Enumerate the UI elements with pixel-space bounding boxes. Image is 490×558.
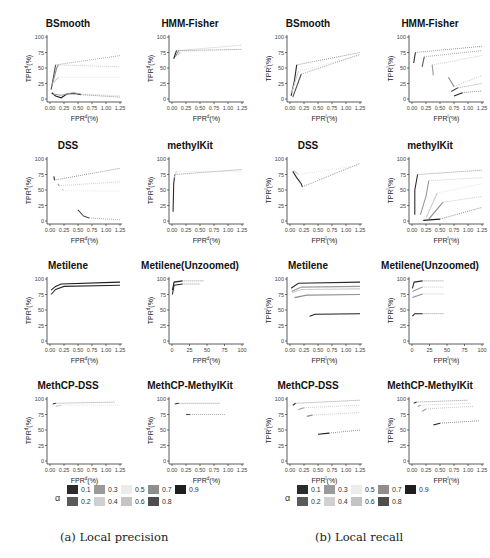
svg-text:75: 75: [160, 292, 166, 298]
svg-text:25: 25: [426, 347, 432, 353]
svg-text:0.25: 0.25: [181, 467, 192, 473]
svg-text:1.25: 1.25: [355, 105, 366, 111]
legend-label: 0.9: [189, 486, 199, 493]
svg-text:0.50: 0.50: [195, 227, 206, 233]
svg-text:25: 25: [400, 323, 406, 329]
caption-left: (a) Local precision: [60, 530, 168, 544]
svg-text:0.25: 0.25: [59, 105, 70, 111]
legend-right: α0.10.20.30.40.50.60.70.80.9: [285, 485, 465, 515]
svg-text:25: 25: [160, 443, 166, 449]
svg-text:100: 100: [157, 34, 166, 40]
svg-text:TPRd(%): TPRd(%): [146, 417, 155, 444]
legend-swatch-0-6: [121, 497, 132, 506]
svg-text:0: 0: [41, 96, 44, 102]
legend-swatch-0-7: [378, 485, 389, 494]
svg-text:TPRl(%): TPRl(%): [386, 178, 395, 204]
svg-text:100: 100: [237, 347, 246, 353]
legend-label: 0.3: [108, 486, 118, 493]
legend-swatch-0-8: [148, 497, 159, 506]
svg-text:75: 75: [461, 347, 467, 353]
chart-plot: 02550751000.000.250.500.751.001.25FPRd(%…: [8, 6, 128, 124]
svg-text:0.25: 0.25: [181, 227, 192, 233]
svg-text:25: 25: [160, 81, 166, 87]
svg-text:1.25: 1.25: [115, 347, 126, 353]
caption-right: (b) Local recall: [315, 530, 403, 544]
chart-panel-methcp-dss-recall: MethCP-DSS02550751000.000.250.500.751.00…: [248, 368, 368, 486]
svg-text:75: 75: [278, 172, 284, 178]
svg-text:25: 25: [278, 443, 284, 449]
svg-text:FPRd(%): FPRd(%): [71, 476, 98, 485]
svg-text:50: 50: [160, 65, 166, 71]
legend-alpha-symbol: α: [285, 493, 290, 503]
svg-text:0.50: 0.50: [73, 105, 84, 111]
svg-text:100: 100: [35, 34, 44, 40]
svg-text:FPRd(%): FPRd(%): [193, 236, 220, 245]
svg-text:0.50: 0.50: [195, 467, 206, 473]
legend-swatch-0-7: [148, 485, 159, 494]
svg-text:50: 50: [204, 347, 210, 353]
legend-swatch-0-9: [175, 485, 186, 494]
chart-plot: 02550751000.000.250.500.751.001.25FPRl(%…: [370, 128, 490, 246]
svg-text:0: 0: [163, 338, 166, 344]
svg-text:0.00: 0.00: [407, 467, 418, 473]
svg-text:TPRl(%): TPRl(%): [386, 56, 395, 82]
svg-text:0.50: 0.50: [435, 227, 446, 233]
svg-text:0.75: 0.75: [87, 467, 98, 473]
chart-plot: 02550751000.000.250.500.751.001.25FPRl(%…: [248, 248, 368, 366]
svg-text:TPRd(%): TPRd(%): [146, 297, 155, 324]
svg-text:0.50: 0.50: [73, 467, 84, 473]
chart-plot: 02550751000.000.250.500.751.001.25FPRl(%…: [248, 6, 368, 124]
svg-text:0: 0: [403, 458, 406, 464]
svg-text:FPRd(%): FPRd(%): [193, 114, 220, 123]
svg-text:25: 25: [400, 81, 406, 87]
svg-text:25: 25: [160, 203, 166, 209]
chart-plot: 02550751000.000.250.500.751.001.25FPRl(%…: [248, 368, 368, 486]
svg-text:TPRl(%): TPRl(%): [264, 178, 273, 204]
svg-text:25: 25: [278, 203, 284, 209]
legend-swatch-0-5: [121, 485, 132, 494]
legend-swatch-0-9: [405, 485, 416, 494]
svg-text:FPRl(%): FPRl(%): [312, 114, 338, 123]
chart-panel-dss-recall: DSS02550751000.000.250.500.751.001.25FPR…: [248, 128, 368, 246]
svg-text:1.00: 1.00: [223, 227, 234, 233]
svg-text:0.75: 0.75: [87, 105, 98, 111]
svg-text:1.00: 1.00: [101, 347, 112, 353]
svg-text:1.00: 1.00: [463, 227, 474, 233]
svg-text:0: 0: [41, 338, 44, 344]
svg-text:FPRl(%): FPRl(%): [434, 114, 460, 123]
svg-text:0.50: 0.50: [435, 467, 446, 473]
svg-text:FPRd(%): FPRd(%): [71, 114, 98, 123]
svg-text:0.50: 0.50: [73, 347, 84, 353]
legend-left: α0.10.20.30.40.50.60.70.80.9: [55, 485, 235, 515]
svg-text:0: 0: [281, 458, 284, 464]
svg-text:75: 75: [38, 172, 44, 178]
svg-text:50: 50: [278, 187, 284, 193]
legend-swatch-0-4: [324, 497, 335, 506]
legend-swatch-0-6: [351, 497, 362, 506]
svg-text:75: 75: [38, 50, 44, 56]
svg-text:50: 50: [400, 187, 406, 193]
svg-text:1.25: 1.25: [115, 105, 126, 111]
chart-panel-methylkit-precision: methylKit02550751000.000.250.500.751.001…: [130, 128, 250, 246]
svg-text:0.75: 0.75: [209, 227, 220, 233]
svg-text:75: 75: [400, 50, 406, 56]
chart-plot: 02550751000.000.250.500.751.001.25FPRd(%…: [8, 128, 128, 246]
svg-text:0.00: 0.00: [45, 467, 56, 473]
svg-text:75: 75: [221, 347, 227, 353]
svg-text:25: 25: [278, 323, 284, 329]
svg-text:75: 75: [400, 412, 406, 418]
svg-text:1.00: 1.00: [341, 347, 352, 353]
svg-text:0.00: 0.00: [167, 227, 178, 233]
svg-text:1.25: 1.25: [477, 105, 488, 111]
svg-text:100: 100: [275, 396, 284, 402]
svg-text:25: 25: [38, 81, 44, 87]
svg-text:1.00: 1.00: [341, 467, 352, 473]
chart-panel-dss-precision: DSS02550751000.000.250.500.751.001.25FPR…: [8, 128, 128, 246]
chart-panel-bsmooth-recall: BSmooth02550751000.000.250.500.751.001.2…: [248, 6, 368, 124]
svg-text:0.75: 0.75: [209, 467, 220, 473]
svg-text:100: 100: [275, 276, 284, 282]
svg-text:0.00: 0.00: [45, 227, 56, 233]
svg-text:0: 0: [163, 218, 166, 224]
svg-text:0.00: 0.00: [167, 467, 178, 473]
legend-label: 0.5: [135, 486, 145, 493]
